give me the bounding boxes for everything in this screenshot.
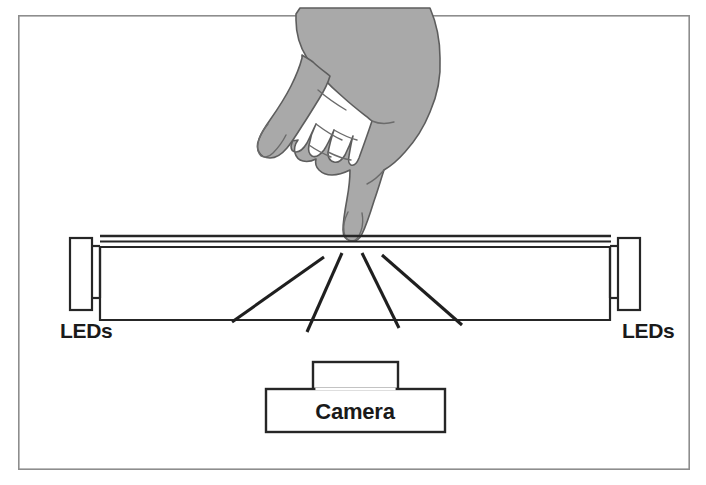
label-camera: Camera: [315, 399, 395, 424]
ftir-diagram-figure: LEDs LEDs Camera: [0, 0, 706, 485]
led-array-right: [610, 238, 640, 310]
camera-lens-housing: [313, 362, 398, 389]
diagram-canvas: LEDs LEDs Camera: [0, 0, 706, 485]
hand-silhouette: [258, 8, 441, 241]
acrylic-waveguide-panel: [100, 236, 611, 320]
label-leds-left: LEDs: [60, 319, 112, 342]
label-leds-right: LEDs: [622, 319, 674, 342]
led-array-left: [70, 238, 100, 310]
